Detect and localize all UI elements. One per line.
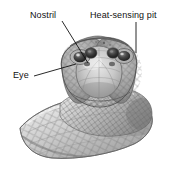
snake-illustration xyxy=(0,0,176,183)
right-heat-sensing-pit xyxy=(107,48,119,58)
label-nostril: Nostril xyxy=(30,10,56,20)
snake-anatomy-figure: Nostril Heat-sensing pit Eye xyxy=(0,0,176,183)
label-eye: Eye xyxy=(13,70,29,80)
right-nostril xyxy=(109,62,115,66)
left-nostril xyxy=(84,62,90,66)
left-heat-sensing-pit xyxy=(85,48,97,58)
label-heat-sensing-pit: Heat-sensing pit xyxy=(90,10,157,20)
